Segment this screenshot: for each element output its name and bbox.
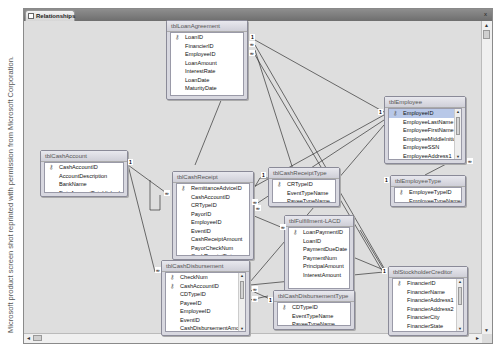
field-list[interactable]: ⚷CDTypeID EventTypeName PayeeTypeName — [277, 302, 351, 326]
field-LoanAmount[interactable]: LoanAmount — [171, 59, 243, 68]
field-PayorID[interactable]: PayorID — [177, 210, 249, 219]
field-EmployeeMiddleInitial[interactable]: EmployeeMiddleInitial — [389, 135, 461, 144]
scroll-up-arrow[interactable]: ▲ — [457, 279, 463, 284]
field-DateAccountEstablished[interactable]: DateAccountEstablished — [45, 189, 123, 194]
table-title[interactable]: tblEmployeeType — [391, 176, 465, 187]
field-FinancierID[interactable]: ⚷FinancierID — [393, 279, 463, 288]
field-FinancierZipCode[interactable]: FinancierZipCode — [393, 330, 463, 332]
field-FinancierID[interactable]: FinancierID — [171, 42, 243, 51]
table-tblCashDisbursementType[interactable]: tblCashDisbursementType ⚷CDTypeID EventT… — [273, 290, 355, 330]
field-list[interactable]: ⚷LoanPaymentID LoanID PaymentDueDate Pay… — [288, 227, 350, 289]
field-FinancierState[interactable]: FinancierState — [393, 322, 463, 331]
field-EmployeeTypeID[interactable]: ⚷EmployeeTypeID — [395, 188, 461, 197]
field-LoanDate[interactable]: LoanDate — [171, 76, 243, 85]
field-RemittanceAdviceID[interactable]: ⚷RemittanceAdviceID — [177, 184, 249, 193]
field-PrincipalAmount[interactable]: PrincipalAmount — [289, 262, 349, 271]
scroll-down-arrow[interactable]: ▼ — [239, 326, 245, 331]
field-CDTypeID[interactable]: ⚷CDTypeID — [278, 303, 350, 312]
scroll-up-arrow[interactable]: ▲ — [455, 109, 461, 114]
field-list[interactable]: ⚷CheckNum ⚷CashAccountID CDTypeID PayeeI… — [165, 272, 246, 332]
table-tblCashReceipt[interactable]: tblCashReceipt ⚷RemittanceAdviceID CashA… — [172, 171, 254, 260]
field-EmployeeSSN[interactable]: EmployeeSSN — [389, 143, 461, 152]
scroll-thumb[interactable] — [458, 287, 462, 305]
field-list[interactable]: ⚷FinancierID FinancierName FinancierAddr… — [392, 278, 464, 332]
table-tblStockholderCreditor[interactable]: tblStockholderCreditor ⚷FinancierID Fina… — [388, 266, 468, 336]
field-EmployeeTypeName[interactable]: EmployeeTypeName — [395, 197, 461, 204]
field-PayeeTypeName[interactable]: PayeeTypeName — [278, 320, 350, 326]
table-title[interactable]: tblCashReceiptType — [269, 168, 339, 179]
field-list[interactable]: ⚷EmployeeTypeID EmployeeTypeName — [394, 187, 462, 203]
field-LoanID[interactable]: LoanID — [289, 237, 349, 246]
table-title[interactable]: tblCashReceipt — [173, 172, 253, 183]
field-CashReceiptDate[interactable]: CashReceiptDate — [177, 252, 249, 256]
scroll-up-arrow[interactable]: ▲ — [239, 273, 245, 278]
field-FinancierName[interactable]: FinancierName — [393, 288, 463, 297]
field-LoanPaymentID[interactable]: ⚷LoanPaymentID — [289, 228, 349, 237]
field-CRTypeID[interactable]: ⚷CRTypeID — [273, 180, 335, 189]
field-list[interactable]: ⚷CashAccountID AccountDescription BankNa… — [44, 162, 124, 193]
field-FinancierCity[interactable]: FinancierCity — [393, 313, 463, 322]
field-FinancierAddress2[interactable]: FinancierAddress2 — [393, 305, 463, 314]
table-title[interactable]: tblCashDisbursementType — [274, 291, 354, 302]
field-list[interactable]: ⚷RemittanceAdviceID CashAccountID CRType… — [176, 183, 250, 256]
field-EmployeeID[interactable]: EmployeeID — [171, 50, 243, 59]
field-EventTypeName[interactable]: EventTypeName — [273, 189, 335, 198]
field-LoanID[interactable]: ⚷LoanID — [171, 33, 243, 42]
field-EmployeeID[interactable]: EmployeeID — [177, 218, 249, 227]
field-list[interactable]: ⚷EmployeeID EmployeeLastName EmployeeFir… — [388, 108, 462, 160]
scroll-thumb[interactable] — [456, 117, 460, 135]
table-tblCashDisbursement[interactable]: tblCashDisbursement ⚷CheckNum ⚷CashAccou… — [161, 260, 250, 336]
field-CashAccountID[interactable]: ⚷CashAccountID — [166, 282, 245, 291]
field-list-scrollbar[interactable]: ▲ ▼ — [454, 109, 461, 159]
scroll-down-arrow[interactable]: ▼ — [455, 154, 461, 159]
field-CRTypeID[interactable]: CRTypeID — [177, 201, 249, 210]
field-EmployeeFirstName[interactable]: EmployeeFirstName — [389, 126, 461, 135]
field-PaymentsPerYear[interactable]: PaymentsPerYear — [171, 93, 243, 97]
table-title[interactable]: tblStockholderCreditor — [389, 267, 467, 278]
field-list-scrollbar[interactable]: ▲ ▼ — [456, 279, 463, 331]
table-title[interactable]: tblLoanAgreement — [167, 21, 247, 32]
table-title[interactable]: tblCashDisbursement — [162, 261, 249, 272]
field-InterestAmount[interactable]: InterestAmount — [289, 271, 349, 280]
field-EmployeeID[interactable]: ⚷EmployeeID — [389, 109, 461, 118]
field-CashDisbursementAmount[interactable]: CashDisbursementAmou — [166, 324, 245, 332]
field-InterestRate[interactable]: InterestRate — [171, 67, 243, 76]
field-list[interactable]: ⚷LoanID FinancierID EmployeeID LoanAmoun… — [170, 32, 244, 96]
field-EmployeeLastName[interactable]: EmployeeLastName — [389, 118, 461, 127]
scroll-thumb[interactable] — [240, 281, 244, 299]
cardinality-many: ∞ — [252, 286, 258, 292]
field-MaturityDate[interactable]: MaturityDate — [171, 84, 243, 93]
table-tblCashReceiptType[interactable]: tblCashReceiptType ⚷CRTypeID EventTypeNa… — [268, 167, 340, 207]
field-PaymentNum[interactable]: PaymentNum — [289, 254, 349, 263]
scroll-down-arrow[interactable]: ▼ — [457, 326, 463, 331]
table-title[interactable]: tblFulfillment-LACD — [285, 216, 353, 227]
field-CDTypeID[interactable]: CDTypeID — [166, 290, 245, 299]
table-tblCashAccount[interactable]: tblCashAccount ⚷CashAccountID AccountDes… — [40, 150, 128, 197]
cardinality-one: 1 — [128, 159, 133, 165]
field-EventTypeName[interactable]: EventTypeName — [278, 312, 350, 321]
field-AccountDescription[interactable]: AccountDescription — [45, 172, 123, 181]
field-list[interactable]: ⚷CRTypeID EventTypeName PayeeTypeName — [272, 179, 336, 203]
field-CashAccountID[interactable]: CashAccountID — [177, 193, 249, 202]
table-title[interactable]: tblEmployee — [385, 97, 465, 108]
field-PayeeID[interactable]: PayeeID — [166, 299, 245, 308]
field-PaymentDueDate[interactable]: PaymentDueDate — [289, 245, 349, 254]
field-PayeeTypeName[interactable]: PayeeTypeName — [273, 197, 335, 203]
field-CashAccountID[interactable]: ⚷CashAccountID — [45, 163, 123, 172]
field-CheckNum[interactable]: ⚷CheckNum — [166, 273, 245, 282]
field-EventID[interactable]: EventID — [166, 316, 245, 325]
table-tblEmployee[interactable]: tblEmployee ⚷EmployeeID EmployeeLastName… — [384, 96, 466, 164]
field-BankName[interactable]: BankName — [45, 180, 123, 189]
field-EmployeeAddress1[interactable]: EmployeeAddress1 — [389, 152, 461, 161]
table-tblEmployeeType[interactable]: tblEmployeeType ⚷EmployeeTypeID Employee… — [390, 175, 466, 207]
field-PayorCheckNum[interactable]: PayorCheckNum — [177, 244, 249, 253]
table-tblFulfillment-LACD[interactable]: tblFulfillment-LACD ⚷LoanPaymentID LoanI… — [284, 215, 354, 293]
field-CashReceiptAmount[interactable]: CashReceiptAmount — [177, 235, 249, 244]
field-EventID[interactable]: EventID — [177, 227, 249, 236]
field-list-scrollbar[interactable]: ▲ ▼ — [238, 273, 245, 331]
table-tblLoanAgreement[interactable]: tblLoanAgreement ⚷LoanID FinancierID Emp… — [166, 20, 248, 100]
cardinality-one: 1 — [250, 34, 255, 40]
field-FinancierAddress1[interactable]: FinancierAddress1 — [393, 296, 463, 305]
field-EmployeeID[interactable]: EmployeeID — [166, 307, 245, 316]
table-title[interactable]: tblCashAccount — [41, 151, 127, 162]
